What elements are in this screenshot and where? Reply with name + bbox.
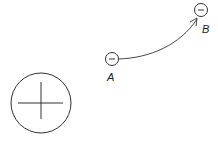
trajectory-path: [119, 19, 198, 59]
label-a: A: [107, 72, 114, 83]
label-b: B: [202, 24, 209, 35]
negative-charge-a: [106, 53, 119, 66]
plus-icon: [18, 82, 63, 119]
negative-charge-b: [195, 4, 208, 17]
positive-charge: [11, 73, 71, 133]
arrowhead-icon: [190, 18, 197, 26]
